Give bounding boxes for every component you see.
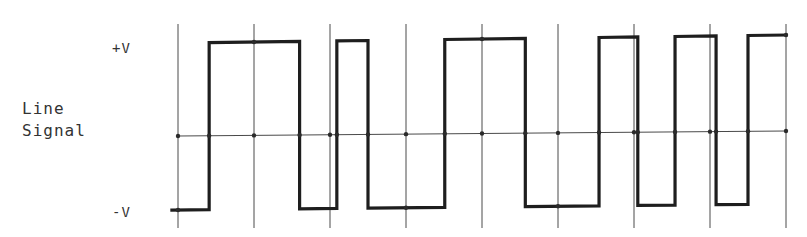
grid-wave-marker-4 [480,37,484,41]
grid-wave-marker-8 [784,33,788,37]
grid-mid-marker-1 [252,133,256,137]
grid-mid-marker-2 [328,133,332,137]
grid-mid-marker-0 [176,134,180,138]
grid-mid-marker-6 [632,130,636,134]
transition-marker-6 [597,130,601,134]
transition-marker-9 [714,129,718,133]
transition-marker-3 [366,132,370,136]
bit-period-gridlines [178,24,786,228]
grid-mid-marker-4 [480,131,484,135]
transition-marker-1 [297,133,301,137]
transition-marker-5 [523,131,527,135]
transition-marker-4 [443,132,447,136]
transition-marker-2 [335,132,339,136]
grid-wave-marker-1 [252,40,256,44]
line-signal-diagram [0,0,807,237]
grid-mid-marker-3 [404,132,408,136]
grid-mid-marker-8 [784,129,788,133]
transition-marker-10 [746,129,750,133]
grid-wave-marker-3 [404,206,408,210]
transition-marker-7 [636,130,640,134]
signal-waveform [172,35,786,210]
grid-mid-marker-7 [708,129,712,133]
grid-wave-marker-0 [176,208,180,212]
grid-mid-marker-5 [556,131,560,135]
transition-marker-8 [673,130,677,134]
transition-marker-0 [207,134,211,138]
grid-wave-marker-5 [556,204,560,208]
